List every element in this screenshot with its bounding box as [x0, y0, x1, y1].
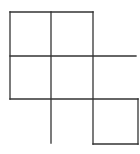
grid-diagram	[0, 0, 140, 154]
grid-lines-svg	[0, 0, 140, 154]
